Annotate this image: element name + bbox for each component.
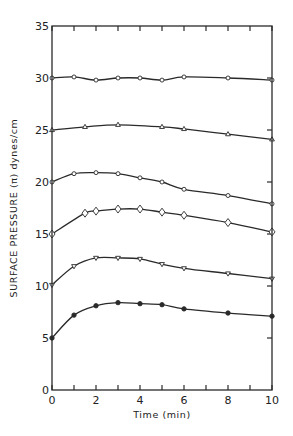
series-initial-25 xyxy=(50,122,275,141)
surface-pressure-chart: 024681005101520253035 Time (min) SURFACE… xyxy=(0,0,293,436)
open-circle-marker xyxy=(226,76,230,80)
x-axis-title: Time (min) xyxy=(132,409,191,420)
open-circle-marker xyxy=(116,172,120,176)
open-circle-marker xyxy=(160,180,164,184)
series-line xyxy=(52,257,272,285)
diamond-marker xyxy=(115,205,121,213)
triangle-up-marker xyxy=(116,122,121,126)
x-tick-label: 8 xyxy=(225,394,232,407)
open-circle-marker xyxy=(94,171,98,175)
y-tick-label: 30 xyxy=(35,72,49,85)
diamond-marker xyxy=(93,207,99,215)
triangle-up-marker xyxy=(160,124,165,128)
y-tick-label: 35 xyxy=(35,20,49,33)
open-circle-marker xyxy=(182,75,186,79)
triangle-down-marker xyxy=(160,263,165,267)
diamond-marker xyxy=(159,208,165,216)
open-circle-marker xyxy=(138,176,142,180)
diamond-marker xyxy=(137,205,143,213)
open-circle-marker xyxy=(226,194,230,198)
open-circle-marker xyxy=(160,78,164,82)
diamond-marker xyxy=(225,219,231,227)
filled-circle-marker xyxy=(160,303,164,307)
filled-circle-marker xyxy=(116,300,120,304)
y-tick-label: 20 xyxy=(35,176,49,189)
triangle-down-marker xyxy=(72,265,77,269)
triangle-up-marker xyxy=(182,126,187,130)
y-tick-label: 10 xyxy=(35,280,49,293)
filled-circle-marker xyxy=(138,301,142,305)
triangle-down-marker xyxy=(138,257,143,261)
series-initial-20 xyxy=(50,171,274,206)
series-initial-30 xyxy=(50,75,274,82)
open-circle-marker xyxy=(138,76,142,80)
diamond-marker xyxy=(82,209,88,217)
open-circle-marker xyxy=(94,78,98,82)
open-circle-marker xyxy=(182,187,186,191)
filled-circle-marker xyxy=(226,311,230,315)
triangle-down-marker xyxy=(94,256,99,260)
filled-circle-marker xyxy=(94,304,98,308)
series-initial-15 xyxy=(49,205,275,238)
x-tick-label: 10 xyxy=(265,394,279,407)
triangle-up-marker xyxy=(226,132,231,136)
y-axis-title: SURFACE PRESSURE (π) dynes/cm xyxy=(8,119,19,298)
x-tick-label: 0 xyxy=(49,394,56,407)
triangle-down-marker xyxy=(182,267,187,271)
y-tick-label: 5 xyxy=(42,332,49,345)
x-tick-label: 2 xyxy=(93,394,100,407)
diamond-marker xyxy=(181,211,187,219)
triangle-down-marker xyxy=(226,272,231,276)
triangle-up-marker xyxy=(83,124,88,128)
y-tick-label: 25 xyxy=(35,124,49,137)
triangle-down-marker xyxy=(116,256,121,260)
y-tick-label: 15 xyxy=(35,228,49,241)
series-line xyxy=(52,303,272,338)
open-circle-marker xyxy=(116,76,120,80)
x-tick-label: 4 xyxy=(137,394,144,407)
series-line xyxy=(52,173,272,204)
data-series xyxy=(49,75,275,340)
y-tick-label: 0 xyxy=(42,384,49,397)
series-initial-10 xyxy=(50,256,275,287)
series-initial-5 xyxy=(50,300,274,340)
filled-circle-marker xyxy=(72,313,76,317)
filled-circle-marker xyxy=(182,307,186,311)
open-circle-marker xyxy=(72,75,76,79)
open-circle-marker xyxy=(72,172,76,176)
x-tick-label: 6 xyxy=(181,394,188,407)
